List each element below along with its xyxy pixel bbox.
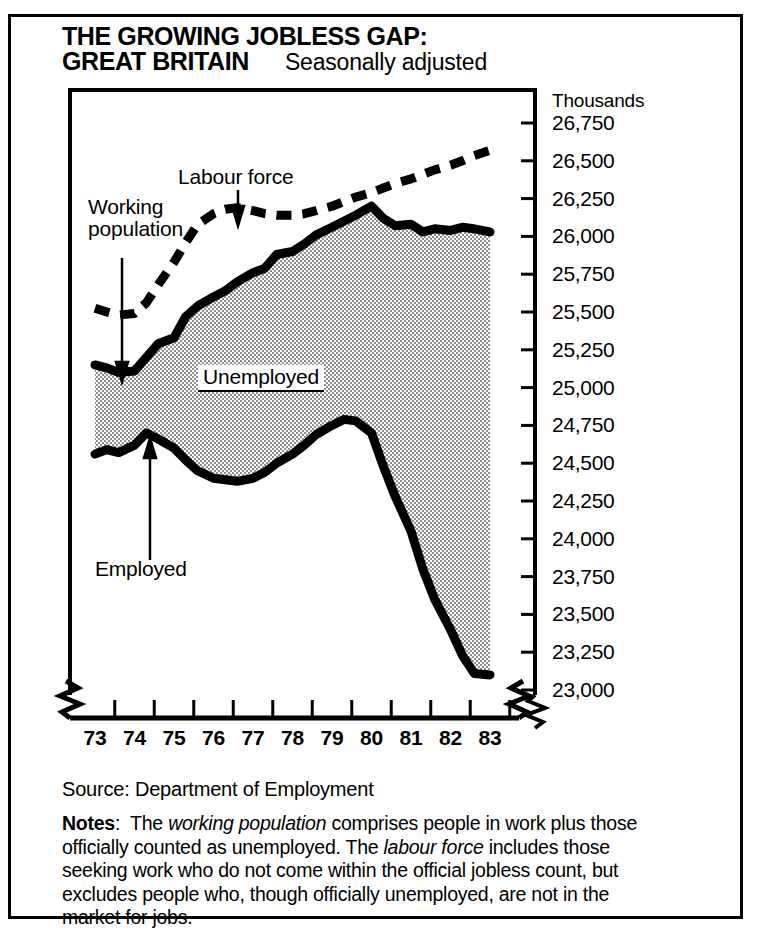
x-axis-tick-label: 76 <box>202 726 225 750</box>
x-axis-tick-label: 75 <box>163 726 186 750</box>
annotation-working-population-line-1: Working <box>88 196 183 218</box>
y-axis-tick-label: 24,750 <box>552 413 614 437</box>
page-title-line-2: GREAT BRITAIN <box>62 49 249 74</box>
y-axis-tick-label: 26,500 <box>552 149 614 173</box>
annotation-employed: Employed <box>95 558 187 580</box>
y-axis-tick-label: 23,750 <box>552 565 614 589</box>
y-axis-tick-label: 25,750 <box>552 262 614 286</box>
y-axis-tick-label: 24,250 <box>552 489 614 513</box>
x-axis-tick-label: 80 <box>360 726 383 750</box>
y-axis-tick-label: 25,000 <box>552 376 614 400</box>
y-axis-tick-label: 24,000 <box>552 527 614 551</box>
y-axis-tick-label: 25,250 <box>552 338 614 362</box>
x-axis-tick-label: 73 <box>84 726 107 750</box>
chart-page: THE GROWING JOBLESS GAP: GREAT BRITAIN S… <box>0 0 758 933</box>
y-axis-tick-label: 26,250 <box>552 187 614 211</box>
title-block: THE GROWING JOBLESS GAP: GREAT BRITAIN S… <box>62 24 712 76</box>
chart-subtitle: Seasonally adjusted <box>285 49 487 76</box>
notes-label: Notes <box>62 812 115 834</box>
source-note: Source: Department of Employment <box>62 778 374 801</box>
x-axis-tick-label: 78 <box>281 726 304 750</box>
y-axis-tick-label: 26,750 <box>552 111 614 135</box>
y-axis-tick-label: 23,500 <box>552 602 614 626</box>
title-row-2: GREAT BRITAIN Seasonally adjusted <box>62 49 712 76</box>
x-axis-tick-label: 83 <box>479 726 502 750</box>
annotation-labour-force: Labour force <box>178 166 294 188</box>
annotation-unemployed: Unemployed <box>198 365 324 392</box>
x-axis-tick-label: 82 <box>439 726 462 750</box>
page-title-line-1: THE GROWING JOBLESS GAP: <box>62 24 712 49</box>
y-axis-units-caption: Thousands <box>552 90 644 112</box>
notes-segment-1: The <box>130 812 168 834</box>
notes-emphasis-2: labour force <box>384 836 484 858</box>
annotation-working-population: Working population <box>88 196 183 240</box>
x-axis-tick-label: 81 <box>400 726 423 750</box>
notes-emphasis-1: working population <box>168 812 326 834</box>
notes-block: Notes: The working population comprises … <box>62 812 662 930</box>
y-axis-tick-label: 23,250 <box>552 640 614 664</box>
y-axis-tick-label: 25,500 <box>552 300 614 324</box>
annotation-working-population-line-2: population <box>88 218 183 240</box>
y-axis-tick-label: 24,500 <box>552 451 614 475</box>
y-axis-tick-label: 23,000 <box>552 678 614 702</box>
notes-colon: : <box>115 812 120 834</box>
x-axis-tick-label: 74 <box>123 726 146 750</box>
y-axis-tick-label: 26,000 <box>552 224 614 248</box>
x-axis-tick-label: 77 <box>242 726 265 750</box>
x-axis-tick-label: 79 <box>321 726 344 750</box>
